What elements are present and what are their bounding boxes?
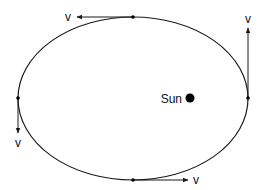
orbit-diagram: vvvv Sun bbox=[0, 0, 265, 190]
sun-label: Sun bbox=[161, 92, 182, 106]
orbit-point-right bbox=[246, 96, 250, 100]
velocity-label-right: v bbox=[245, 12, 251, 26]
sun-icon bbox=[186, 94, 195, 103]
velocity-label-top: v bbox=[65, 10, 71, 24]
orbit-point-bottom bbox=[131, 178, 135, 182]
orbit-point-top bbox=[131, 15, 135, 19]
velocity-label-left: v bbox=[15, 136, 21, 150]
velocity-label-bottom: v bbox=[193, 173, 199, 187]
orbit-point-left bbox=[16, 96, 20, 100]
orbit-ellipse bbox=[18, 17, 248, 180]
